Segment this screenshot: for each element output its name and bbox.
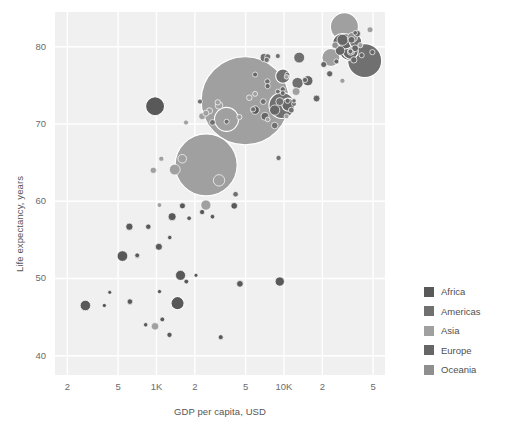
bubble-asia bbox=[215, 100, 220, 105]
bubble-americas bbox=[294, 52, 305, 63]
bubble-africa bbox=[135, 253, 140, 258]
legend-swatch-icon bbox=[424, 326, 434, 336]
y-tick-label: 60 bbox=[20, 195, 46, 206]
bubble-europe bbox=[253, 72, 258, 77]
x-tick-label: 10K bbox=[269, 381, 299, 392]
bubble-africa bbox=[143, 323, 147, 327]
bubble-europe bbox=[280, 91, 285, 96]
bubble-africa bbox=[184, 279, 189, 284]
bubble-europe bbox=[334, 59, 339, 64]
legend-swatch-icon bbox=[424, 306, 434, 316]
bubble-asia bbox=[151, 323, 159, 331]
bubble-africa bbox=[160, 317, 165, 322]
bubble-asia bbox=[253, 91, 258, 96]
bubble-americas bbox=[224, 119, 229, 124]
legend-item-oceania[interactable]: Oceania bbox=[424, 360, 481, 380]
bubble-asia bbox=[183, 120, 188, 125]
bubble-americas bbox=[260, 99, 266, 105]
bubble-asia bbox=[265, 117, 270, 122]
bubble-africa bbox=[210, 214, 215, 219]
bubble-asia bbox=[237, 114, 242, 119]
bubble-africa bbox=[171, 297, 184, 310]
bubble-africa bbox=[102, 303, 106, 307]
bubble-europe bbox=[348, 49, 353, 54]
bubble-asia bbox=[150, 167, 156, 173]
legend-label: Americas bbox=[441, 306, 481, 317]
bubble-asia bbox=[292, 88, 300, 96]
x-tick-label: 5 bbox=[358, 381, 388, 392]
bubble-africa bbox=[275, 277, 284, 286]
bubble-asia bbox=[247, 95, 253, 101]
x-tick-label: 5 bbox=[231, 381, 261, 392]
legend-label: Asia bbox=[441, 325, 459, 336]
legend: AfricaAmericasAsiaEuropeOceania bbox=[424, 282, 481, 380]
bubble-oceania bbox=[332, 42, 339, 49]
bubble-americas bbox=[275, 54, 280, 59]
bubble-asia bbox=[340, 78, 345, 83]
bubble-africa bbox=[176, 270, 186, 280]
bubble-americas bbox=[288, 107, 294, 113]
bubble-africa bbox=[168, 213, 176, 221]
bubble-africa bbox=[194, 273, 198, 277]
bubble-asia bbox=[284, 75, 289, 80]
bubble-europe bbox=[337, 34, 348, 45]
bubble-africa bbox=[157, 289, 161, 293]
bubble-americas bbox=[276, 98, 284, 106]
bubble-americas bbox=[292, 99, 296, 103]
bubble-asia bbox=[175, 134, 237, 196]
bubble-africa bbox=[200, 209, 205, 214]
bubble-asia bbox=[284, 114, 289, 119]
bubble-asia bbox=[358, 43, 363, 48]
bubble-africa bbox=[231, 203, 238, 210]
legend-label: Africa bbox=[441, 286, 465, 297]
y-tick-label: 40 bbox=[20, 350, 46, 361]
y-axis-title: Life expectancy, years bbox=[14, 176, 25, 272]
bubble-americas bbox=[292, 77, 303, 88]
bubble-africa bbox=[146, 224, 151, 229]
bubble-europe bbox=[348, 36, 355, 43]
bubble-chart: Life expectancy, years GDP per capita, U… bbox=[0, 0, 511, 433]
bubble-asia bbox=[159, 156, 164, 161]
x-tick-label: 2 bbox=[52, 381, 82, 392]
bubble-africa bbox=[167, 332, 172, 337]
bubble-europe bbox=[265, 84, 270, 89]
bubble-africa bbox=[179, 203, 185, 209]
bubble-americas bbox=[251, 107, 256, 112]
bubble-asia bbox=[367, 27, 373, 33]
legend-item-americas[interactable]: Americas bbox=[424, 302, 481, 322]
bubble-africa bbox=[117, 251, 128, 262]
bubble-europe bbox=[353, 31, 358, 36]
bubble-africa bbox=[126, 223, 133, 230]
bubble-americas bbox=[264, 57, 269, 62]
legend-label: Oceania bbox=[441, 364, 476, 375]
legend-label: Europe bbox=[441, 345, 472, 356]
x-tick-label: 1K bbox=[141, 381, 171, 392]
legend-swatch-icon bbox=[424, 345, 434, 355]
x-tick-label: 2 bbox=[307, 381, 337, 392]
bubble-europe bbox=[351, 57, 357, 63]
bubble-asia bbox=[203, 110, 209, 116]
legend-item-europe[interactable]: Europe bbox=[424, 341, 481, 361]
bubble-europe bbox=[321, 62, 327, 68]
legend-swatch-icon bbox=[424, 287, 434, 297]
bubble-asia bbox=[213, 175, 224, 186]
y-tick-label: 70 bbox=[20, 118, 46, 129]
bubble-africa bbox=[127, 299, 133, 305]
bubble-europe bbox=[270, 105, 280, 115]
y-tick-label: 50 bbox=[20, 272, 46, 283]
legend-item-africa[interactable]: Africa bbox=[424, 282, 481, 302]
legend-item-asia[interactable]: Asia bbox=[424, 321, 481, 341]
bubble-asia bbox=[178, 154, 187, 163]
bubble-asia bbox=[201, 200, 211, 210]
bubble-africa bbox=[187, 216, 192, 221]
bubble-africa bbox=[237, 281, 244, 288]
bubble-europe bbox=[327, 71, 333, 77]
x-tick-label: 5 bbox=[103, 381, 133, 392]
x-axis-title: GDP per capita, USD bbox=[0, 406, 440, 417]
y-tick-label: 80 bbox=[20, 41, 46, 52]
bubble-americas bbox=[275, 89, 280, 94]
x-tick-label: 2 bbox=[180, 381, 210, 392]
bubble-americas bbox=[276, 155, 281, 160]
bubble-americas bbox=[197, 99, 202, 104]
bubble-europe bbox=[285, 98, 290, 103]
